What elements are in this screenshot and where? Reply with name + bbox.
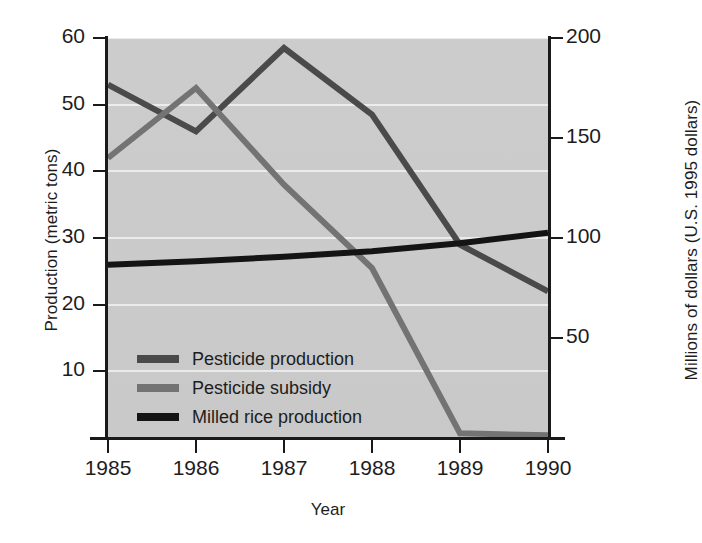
legend-item: Pesticide production xyxy=(137,347,362,370)
y-axis-left-tick-label: 10 xyxy=(25,357,85,381)
x-axis-tick xyxy=(547,440,549,453)
x-axis-tick-label: 1986 xyxy=(156,456,236,480)
y-axis-left-tick xyxy=(93,170,106,172)
y-axis-left-tick-label: 50 xyxy=(25,91,85,115)
y-axis-left-tick-label: 60 xyxy=(25,24,85,48)
legend-item-label: Pesticide production xyxy=(192,350,354,368)
legend-swatch-icon xyxy=(137,384,179,392)
plot-area: Pesticide production Pesticide subsidy M… xyxy=(108,38,548,438)
y-axis-left-tick xyxy=(93,37,106,39)
y-axis-right-tick xyxy=(550,37,563,39)
legend-swatch-icon xyxy=(137,413,179,421)
y-axis-right-tick-label: 200 xyxy=(566,24,626,48)
legend-item: Pesticide subsidy xyxy=(137,376,362,399)
legend-item: Milled rice production xyxy=(137,405,362,428)
y-axis-left-tick xyxy=(93,104,106,106)
x-axis-tick-label: 1989 xyxy=(420,456,500,480)
x-axis-tick-label: 1987 xyxy=(244,456,324,480)
x-axis-title: Year xyxy=(108,500,548,520)
x-axis-tick-label: 1985 xyxy=(68,456,148,480)
y-axis-right-tick-label: 100 xyxy=(566,224,626,248)
x-axis-tick xyxy=(107,440,109,453)
y-axis-right-title: Millions of dollars (U.S. 1995 dollars) xyxy=(682,40,702,440)
x-axis-tick xyxy=(283,440,285,453)
series-line xyxy=(108,233,548,265)
legend-item-label: Milled rice production xyxy=(192,408,362,426)
chart-legend: Pesticide production Pesticide subsidy M… xyxy=(137,347,362,428)
y-axis-left-tick xyxy=(93,237,106,239)
x-axis-tick xyxy=(371,440,373,453)
y-axis-right-tick-label: 50 xyxy=(566,324,626,348)
y-axis-right-tick xyxy=(550,137,563,139)
y-axis-right-tick-label: 150 xyxy=(566,124,626,148)
x-axis-tick-label: 1988 xyxy=(332,456,412,480)
y-axis-left-tick-label: 20 xyxy=(25,291,85,315)
y-axis-right-tick xyxy=(550,237,563,239)
x-axis-tick xyxy=(195,440,197,453)
x-axis-spine xyxy=(90,437,565,440)
y-axis-left-tick-label: 30 xyxy=(25,224,85,248)
y-axis-left-tick xyxy=(93,304,106,306)
x-axis-tick xyxy=(459,440,461,453)
y-axis-left-tick-label: 40 xyxy=(25,157,85,181)
y-axis-right-tick xyxy=(550,337,563,339)
x-axis-tick-label: 1990 xyxy=(508,456,588,480)
legend-swatch-icon xyxy=(137,355,179,363)
legend-item-label: Pesticide subsidy xyxy=(192,379,331,397)
y-axis-left-tick xyxy=(93,370,106,372)
